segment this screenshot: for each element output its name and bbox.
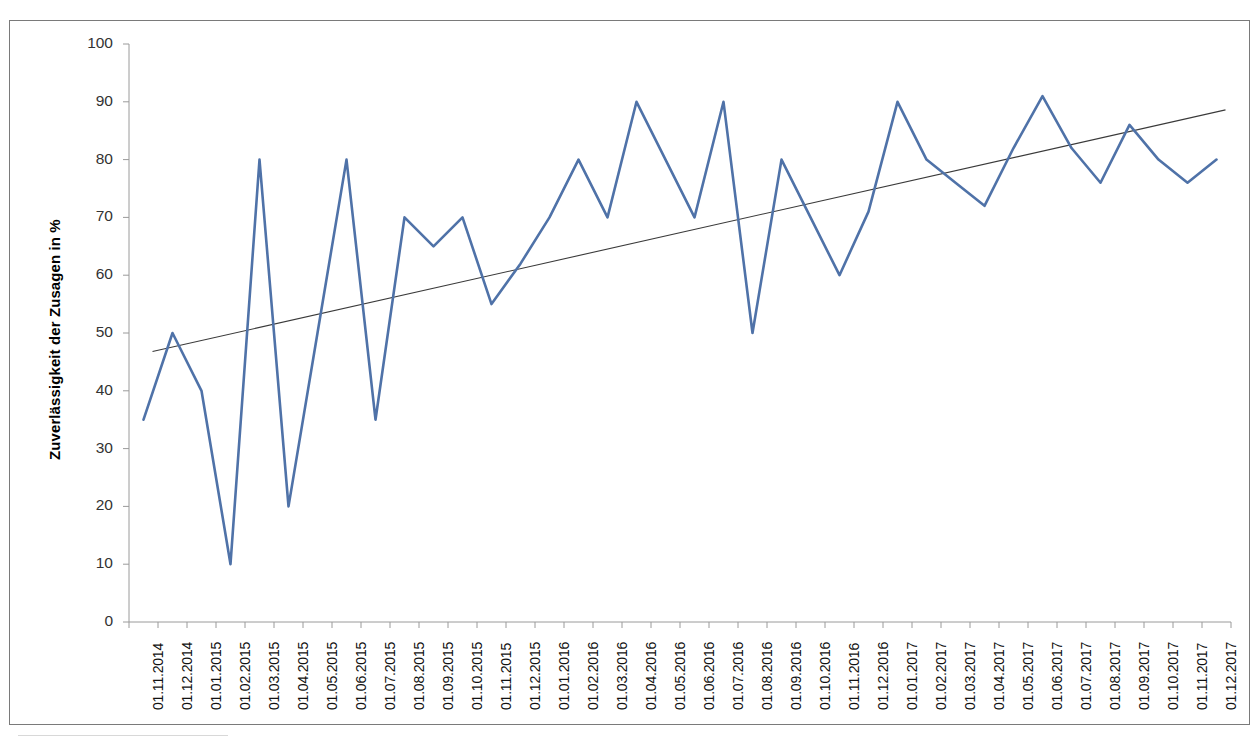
trendline-path	[153, 110, 1226, 352]
tick-marks	[123, 44, 1231, 628]
chart-figure: Zuverlässigkeit der Zusagen in % 0102030…	[0, 0, 1259, 742]
data-series-path	[144, 96, 1217, 564]
plot-area	[0, 0, 1259, 742]
axis-lines	[129, 44, 1231, 622]
